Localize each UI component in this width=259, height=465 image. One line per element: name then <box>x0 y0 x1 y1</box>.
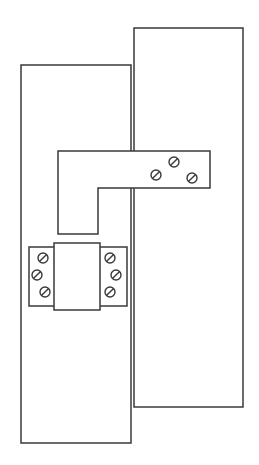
screw-icon <box>40 287 50 297</box>
screw-icon <box>151 170 161 180</box>
diagram-canvas <box>0 0 259 465</box>
screw-icon <box>32 270 42 280</box>
screw-icon <box>105 253 115 263</box>
terminal-block-body <box>54 243 100 310</box>
screw-icon <box>169 157 179 167</box>
right-panel <box>134 28 243 407</box>
screw-icon <box>187 173 197 183</box>
screw-icon <box>111 270 121 280</box>
screw-icon <box>38 253 48 263</box>
screw-icon <box>105 287 115 297</box>
